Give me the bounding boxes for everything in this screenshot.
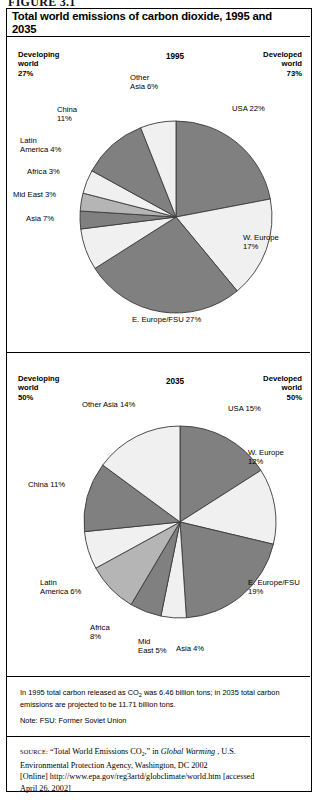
clipped-figure-header: FIGURE 3.1 — [8, 0, 128, 8]
pie-1995-slice-label: Asia 7% — [26, 214, 54, 223]
pie-1995-slice-label: Africa 3% — [27, 167, 60, 176]
pie-1995-slice-label: Other Asia 6% — [130, 73, 158, 92]
pie-1995-slice-label: Mid East 3% — [13, 190, 56, 199]
panel-2035-developing-annotation: Developing world 50% — [18, 374, 108, 402]
pie-2035-slice-label: Other Asia 14% — [82, 400, 135, 409]
source-part2: ,” in — [144, 747, 160, 756]
pie-2035-slice-label: Latin America 6% — [40, 578, 81, 597]
pie-1995-slice-label: W. Europe 17% — [243, 233, 279, 252]
panel-2035-developed-annotation: Developed world 50% — [212, 374, 302, 402]
pie-1995-slice-label: Latin America 4% — [20, 136, 61, 155]
pie-1995-slice-label: China 11% — [57, 105, 77, 124]
pie-chart-1995: USA 22%W. Europe 17%E. Europe/FSU 27%Asi… — [78, 119, 274, 315]
pie-1995-slice-label: USA 22% — [232, 104, 265, 113]
footnote-line2: emissions are projected to be 11.71 bill… — [20, 700, 176, 709]
panel-2035-year: 2035 — [140, 377, 210, 386]
source-part3: , U.S. — [215, 747, 236, 756]
pie-1995-slice-label: E. Europe/FSU 27% — [132, 315, 201, 324]
pie-2035-slice-label: Asia 4% — [176, 644, 204, 653]
source-italic-title: Global Warming — [161, 747, 216, 756]
source-part1: “Total World Emissions CO — [48, 747, 142, 756]
source-divider — [6, 736, 310, 737]
footnote-divider — [6, 676, 310, 677]
pie-2035-slice-label: W. Europe 12% — [248, 448, 284, 467]
pie-2035-slice-label: Mid East 5% — [138, 637, 167, 656]
pie-2035-slice-label: USA 15% — [228, 404, 261, 413]
footnote-fsu-note: Note: FSU: Former Soviet Union — [20, 716, 292, 726]
source-label: SOURCE: — [20, 748, 48, 755]
pie-2035-slice-label: Africa 8% — [90, 623, 110, 642]
figure-title: Total world emissions of carbon dioxide,… — [12, 10, 292, 36]
source-line4: April 26, 2002] — [20, 784, 71, 793]
panel-1995-developing-annotation: Developing world 27% — [18, 50, 108, 78]
source-citation: SOURCE: “Total World Emissions CO2,” in … — [20, 746, 296, 794]
pie-2035-slice-label: China 11% — [28, 480, 65, 489]
panel-divider — [6, 352, 310, 353]
panel-1995-year: 1995 — [140, 52, 210, 61]
panel-1995-developed-annotation: Developed world 73% — [212, 50, 302, 78]
source-line3: [Online] http://www.epa.gov/reg3artd/glo… — [20, 772, 254, 781]
pie-2035-slice-label: E. Europe/FSU 19% — [248, 578, 300, 597]
title-divider — [6, 36, 310, 37]
footnote-line1-a: In 1995 total carbon released as CO — [20, 688, 139, 697]
footnote-line1-b: was 6.46 billion tons; in 2035 total car… — [142, 688, 280, 697]
source-line2: Environmental Protection Agency, Washing… — [20, 761, 208, 770]
footnote-totals: In 1995 total carbon released as CO2 was… — [20, 688, 292, 710]
